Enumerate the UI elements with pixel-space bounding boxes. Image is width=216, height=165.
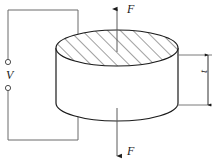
voltage-label: V [6,69,13,81]
thickness-dimension [177,55,212,105]
force-bottom-label: F [127,145,134,157]
piezoelectric-disc-figure: F F V t [0,0,216,165]
force-top-label: F [127,3,134,15]
terminal-circle-icon-top [5,59,10,64]
thickness-label: t [198,70,209,73]
figure-canvas [0,0,216,165]
terminal-circle-icon-bottom [5,85,10,90]
